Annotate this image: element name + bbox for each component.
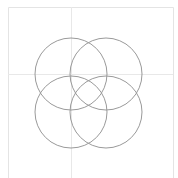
diagram-canvas	[0, 0, 178, 178]
background	[0, 0, 178, 178]
